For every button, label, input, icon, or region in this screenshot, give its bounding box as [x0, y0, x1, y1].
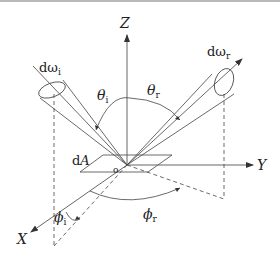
phi-i-label: ϕi [54, 209, 67, 227]
incident-cone [33, 66, 127, 165]
theta-r-label: θr [147, 82, 160, 100]
phi-r-label: ϕr [143, 206, 158, 224]
origin-label: o [113, 165, 118, 175]
theta-arc [96, 98, 180, 130]
area-label: dA [72, 153, 90, 168]
brdf-diagram: Z Y X dA o dωi dωr θi θr ϕi ϕr [0, 2, 280, 255]
z-axis-label: Z [119, 15, 130, 31]
y-axis-label: Y [257, 157, 268, 173]
diagram-frame: Z Y X dA o dωi dωr θi θr ϕi ϕr [0, 0, 280, 255]
theta-i-label: θi [97, 87, 108, 105]
projection-lines [54, 94, 224, 246]
reflected-solid-angle-label: dωr [207, 44, 231, 61]
x-axis-label: X [16, 231, 28, 247]
phi-r-arc [90, 188, 180, 200]
incident-solid-angle-label: dωi [39, 60, 61, 77]
reflected-cone [127, 59, 242, 165]
